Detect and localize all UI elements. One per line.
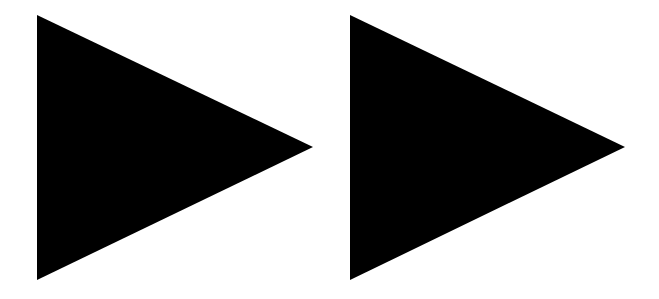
fast-forward-icon: Fast forward	[0, 0, 659, 299]
play-triangle-left-icon	[37, 15, 313, 280]
fast-forward-svg	[0, 0, 659, 299]
play-triangle-right-icon	[350, 15, 625, 280]
